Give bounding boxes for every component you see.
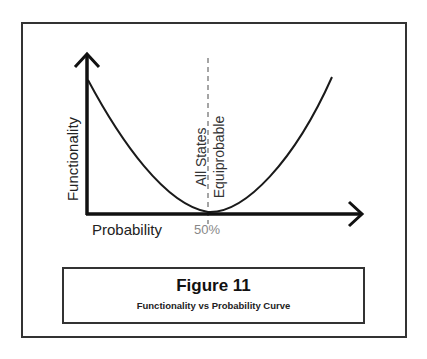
x-axis-label: Probability: [92, 221, 162, 238]
figure-subtitle: Functionality vs Probability Curve: [64, 300, 363, 311]
functionality-curve: [88, 77, 332, 212]
x-tick-50-percent: 50%: [194, 222, 220, 237]
figure-caption-box: Figure 11 Functionality vs Probability C…: [62, 267, 365, 324]
figure-title: Figure 11: [64, 276, 363, 296]
annotation-equiprobable: Equiprobable: [211, 116, 227, 199]
annotation-all-states: All States: [193, 127, 209, 186]
y-axis-label: Functionality: [64, 117, 81, 201]
